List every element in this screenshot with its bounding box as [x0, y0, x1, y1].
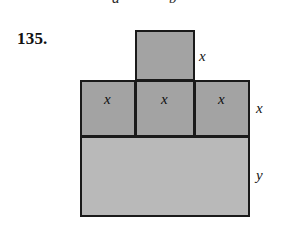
middle-square-right-shape: [194, 80, 250, 137]
clipped-label-a: a: [112, 0, 120, 6]
top-square-shape: [135, 30, 195, 81]
middle-square-right-label: x: [218, 92, 225, 107]
clipped-label-b: b: [169, 0, 177, 6]
bottom-rectangle-shape: [80, 136, 250, 217]
problem-number: 135.: [17, 30, 48, 47]
middle-row-height-label: x: [256, 101, 263, 116]
top-square-height-label: x: [199, 49, 206, 64]
middle-square-left-shape: [80, 80, 136, 137]
middle-square-center-label: x: [161, 92, 168, 107]
middle-square-center-shape: [135, 80, 195, 137]
bottom-rectangle-height-label: y: [256, 168, 263, 183]
clipped-labels-row: a b: [0, 0, 286, 11]
figure-page: a b 135. x x x x x y: [0, 0, 286, 225]
middle-square-left-label: x: [104, 92, 111, 107]
